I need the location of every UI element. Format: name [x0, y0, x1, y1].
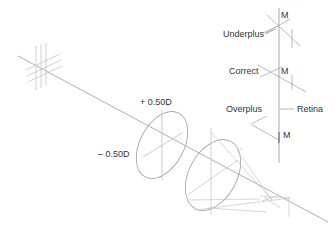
- marker-m-underplus: M: [281, 10, 289, 20]
- label-underplus: Underplus: [223, 29, 264, 39]
- conoid-lens: [174, 128, 252, 220]
- label-retina: Retina: [297, 104, 323, 114]
- label-minus-050d: – 0.50D: [98, 149, 130, 159]
- label-plus-050d: + 0.50D: [140, 97, 172, 107]
- marker-m-overplus: M: [283, 130, 291, 140]
- overplus-focal-lines: [251, 116, 279, 143]
- marker-m-correct: M: [281, 66, 289, 76]
- cross-grid-object: [26, 43, 62, 90]
- label-overplus: Overplus: [226, 104, 262, 114]
- label-correct: Correct: [229, 66, 259, 76]
- diagram-canvas: [0, 0, 334, 240]
